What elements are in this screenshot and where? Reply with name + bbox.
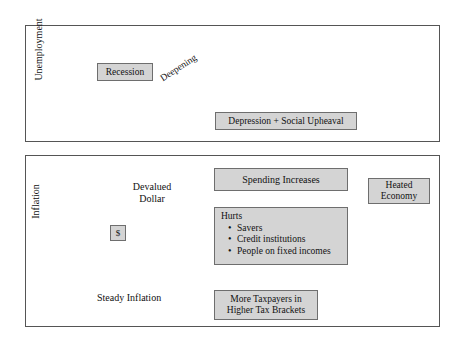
hurts-list-item-label: People on fixed incomes bbox=[237, 246, 331, 256]
more-taxpayers-line1: More Taxpayers in bbox=[227, 294, 305, 305]
more-taxpayers-line2: Higher Tax Brackets bbox=[227, 305, 305, 316]
bullet-icon: • bbox=[228, 222, 232, 234]
steady-inflation-edge-label: Steady Inflation bbox=[97, 292, 161, 303]
unemployment-axis-label: Unemployment bbox=[33, 7, 44, 93]
node-depression-social-upheaval: Depression + Social Upheaval bbox=[215, 112, 357, 130]
node-heated-economy: Heated Economy bbox=[368, 178, 430, 204]
bullet-icon: • bbox=[228, 233, 232, 245]
devalued-dollar-label: Devalued Dollar bbox=[122, 181, 182, 205]
heated-economy-line2: Economy bbox=[381, 191, 417, 202]
devalued-dollar-label-line2: Dollar bbox=[122, 193, 182, 205]
bullet-icon: • bbox=[228, 245, 232, 257]
inflation-axis-label: Inflation bbox=[30, 171, 41, 233]
devalued-dollar-label-line1: Devalued bbox=[122, 181, 182, 193]
node-spending-increases: Spending Increases bbox=[214, 168, 348, 191]
hurts-list-item-label: Savers bbox=[237, 223, 262, 233]
hurts-list-item-label: Credit institutions bbox=[237, 234, 305, 244]
node-dollar-symbol: $ bbox=[110, 225, 126, 241]
node-recession: Recession bbox=[97, 63, 153, 81]
node-hurts: Hurts • Savers • Credit institutions • P… bbox=[214, 207, 348, 265]
hurts-title: Hurts bbox=[221, 211, 347, 222]
node-more-taxpayers: More Taxpayers in Higher Tax Brackets bbox=[214, 290, 318, 320]
hurts-list: • Savers • Credit institutions • People … bbox=[221, 223, 347, 258]
heated-economy-line1: Heated bbox=[381, 180, 417, 191]
hurts-list-item: • People on fixed incomes bbox=[228, 246, 347, 258]
hurts-list-item: • Credit institutions bbox=[228, 234, 347, 246]
hurts-list-item: • Savers bbox=[228, 223, 347, 235]
